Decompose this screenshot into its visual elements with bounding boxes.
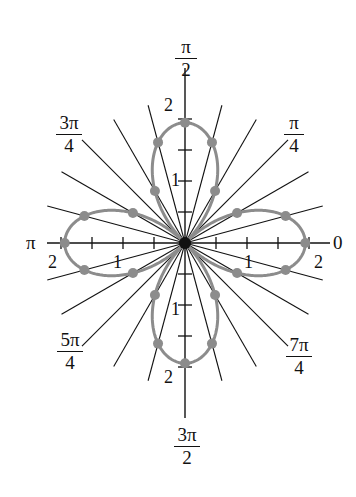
- angle-label-pi-over-4: π 4: [284, 113, 304, 156]
- data-point: [79, 211, 89, 221]
- angle-label-pi: π: [26, 233, 36, 253]
- tick-label-left-2: 2: [48, 253, 57, 271]
- data-point: [232, 208, 242, 218]
- tick-label-down-2: 2: [164, 368, 173, 386]
- data-point: [281, 265, 291, 275]
- tick-label-up-1: 1: [171, 171, 180, 189]
- data-point: [150, 290, 160, 300]
- data-point: [210, 186, 220, 196]
- data-point: [60, 238, 70, 248]
- data-point: [153, 339, 163, 349]
- data-point: [180, 118, 190, 128]
- data-point: [210, 290, 220, 300]
- angle-label-7pi-over-4: 7π 4: [286, 335, 312, 378]
- angle-label-pi-over-2: π 2: [175, 37, 197, 80]
- data-point: [281, 211, 291, 221]
- data-point: [180, 358, 190, 368]
- data-point: [207, 137, 217, 147]
- data-point: [232, 268, 242, 278]
- angle-label-3pi-over-4: 3π 4: [56, 113, 82, 156]
- data-point: [150, 186, 160, 196]
- tick-label-up-2: 2: [164, 96, 173, 114]
- angle-label-3pi-over-2: 3π 2: [174, 425, 200, 468]
- origin-point: [179, 237, 191, 249]
- data-point: [79, 265, 89, 275]
- tick-label-down-1: 1: [171, 300, 180, 318]
- data-point: [300, 238, 310, 248]
- data-point: [128, 268, 138, 278]
- tick-label-right-1: 1: [244, 253, 253, 271]
- data-point: [153, 137, 163, 147]
- tick-label-right-2: 2: [314, 253, 323, 271]
- angle-label-zero: 0: [333, 233, 343, 253]
- angle-label-5pi-over-4: 5π 4: [57, 330, 83, 373]
- data-point: [128, 208, 138, 218]
- tick-label-left-1: 1: [113, 253, 122, 271]
- data-point: [207, 339, 217, 349]
